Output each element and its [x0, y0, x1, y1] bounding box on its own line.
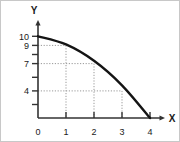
- y-axis-ticks: [32, 36, 38, 104]
- x-axis-arrow-icon: [160, 116, 166, 121]
- gridlines: [38, 45, 122, 118]
- x-tick-label-2: 2: [91, 127, 96, 137]
- y-tick-label-7: 7: [24, 59, 29, 69]
- x-axis-title: X: [169, 113, 176, 124]
- x-tick-label-4: 4: [147, 127, 152, 137]
- x-axis-ticks: [66, 112, 150, 118]
- y-axis-title: Y: [31, 5, 38, 16]
- x-tick-label-1: 1: [63, 127, 68, 137]
- y-tick-label-9: 9: [24, 41, 29, 51]
- axes: [35, 20, 165, 121]
- x-tick-label-3: 3: [119, 127, 124, 137]
- chart-figure: Y X 10 9 7 4 0 1 2 3 4: [0, 0, 180, 142]
- y-axis-arrow-icon: [35, 20, 40, 26]
- x-tick-label-0: 0: [35, 127, 40, 137]
- y-tick-label-4: 4: [24, 86, 29, 96]
- curve-plot: Y X 10 9 7 4 0 1 2 3 4: [0, 0, 180, 142]
